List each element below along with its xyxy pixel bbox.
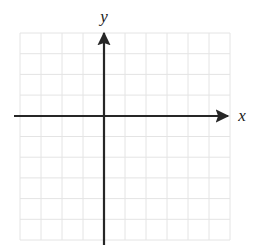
y-axis-label: y: [96, 8, 112, 25]
figure-background: [0, 0, 253, 250]
coordinate-plane-canvas: [0, 0, 253, 250]
x-axis-label: x: [234, 107, 250, 124]
coordinate-grid-figure: y x: [0, 0, 253, 250]
